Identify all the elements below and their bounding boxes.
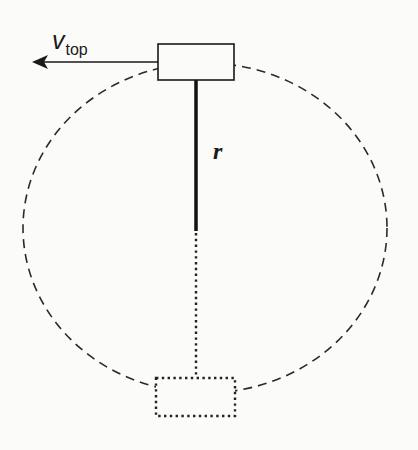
- circular-path: [23, 63, 387, 393]
- velocity-symbol: v: [52, 26, 65, 54]
- radius-label: r: [213, 139, 222, 163]
- velocity-subscript: top: [66, 41, 88, 58]
- vertical-circle-diagram: [0, 0, 418, 450]
- bottom-mass-box: [156, 378, 235, 416]
- top-mass-box: [158, 44, 234, 80]
- velocity-label: vtop: [52, 28, 88, 53]
